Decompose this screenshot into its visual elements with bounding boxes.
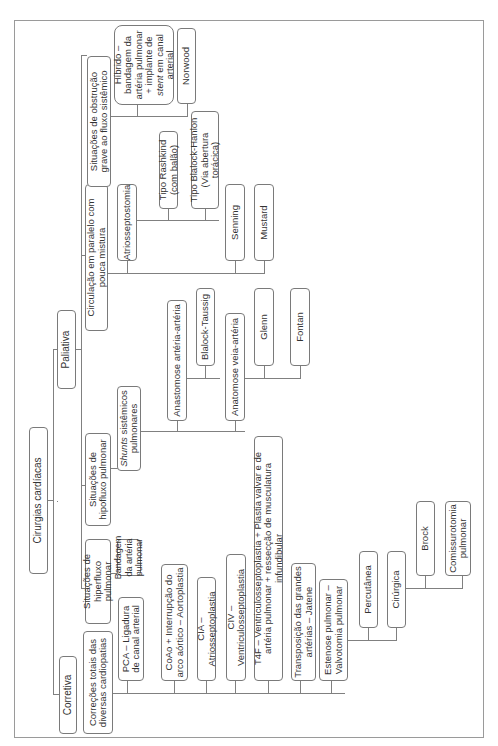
connector (137, 105, 138, 117)
connector (187, 378, 220, 379)
connector (268, 681, 269, 694)
node-root: Cirurgias cardíacas (29, 427, 48, 574)
connector (108, 273, 265, 274)
connector (300, 681, 301, 694)
node-tipo-rashkind: Tipo Rashkind (com balão) (159, 131, 178, 209)
connector (245, 378, 301, 379)
connector (368, 628, 369, 641)
node-tipo-blalock-hanlon: Tipo Blalock-Hanlon (Via abertura toráci… (191, 111, 219, 209)
connector (396, 588, 463, 589)
node-hiperfluxo: Situações de hiperfluxo pulmonar (85, 539, 111, 624)
connector (206, 681, 207, 694)
connector (300, 366, 301, 379)
hibrido-italic: stent (154, 75, 165, 96)
node-corretiva: Corretiva (59, 656, 77, 734)
connector (205, 366, 206, 379)
connector (187, 104, 188, 117)
node-mustard: Mustard (254, 184, 274, 261)
connector (331, 681, 332, 694)
connector (396, 628, 397, 641)
node-civ: CIV – Ventriculosseptoplastia (226, 554, 246, 681)
node-atriosseptostomia: Atriosseptostomia (117, 184, 137, 261)
node-percutanea: Percutânea (359, 551, 378, 628)
connector (235, 421, 236, 432)
connector (81, 55, 87, 56)
connector (127, 681, 128, 694)
connector (57, 501, 58, 502)
node-transposicao: Transposição das grandes artérias – Jate… (291, 563, 316, 681)
connector (462, 576, 463, 589)
node-coao: CoAo + Interrupção do arco aórtico – Aor… (161, 564, 188, 681)
diagram-canvas: Cirurgias cardíacas Corretiva Paliativa … (15, 21, 485, 739)
connector (111, 116, 188, 117)
hibrido-post: em canal arterial (154, 34, 176, 79)
node-hipofluxo: Situações de hipofluxo pulmonar (85, 433, 111, 526)
connector (168, 209, 169, 221)
node-t4f: T4F – Ventriculosseptoplastia + Plastia … (254, 436, 283, 681)
shunts-italic: Shunts (118, 437, 129, 467)
connector (177, 421, 178, 432)
node-correcoes-totais: Correções totais das diversas cardiopati… (83, 631, 113, 734)
node-paliativa: Paliativa (57, 310, 76, 389)
node-cirurgica: Cirúrgica (387, 551, 406, 628)
node-obstrucao: Situações de obstrução grave ao fluxo si… (87, 56, 111, 187)
node-norwood: Norwood (177, 28, 196, 104)
node-bandagem: Bandagem da artéria pulmonar (117, 539, 141, 576)
node-estenose: Estenose pulmonar – Valvotomia pulmonar (319, 579, 348, 681)
connector (137, 220, 219, 221)
node-blalock-taussig: Blalock-Taussig (196, 288, 215, 366)
node-anastomose-arteria-arteria: Anastomose artéria-artéria (167, 300, 187, 421)
connector (53, 349, 54, 695)
connector (129, 431, 245, 432)
connector (264, 261, 265, 274)
connector (348, 640, 397, 641)
node-brock: Brock (416, 501, 435, 576)
connector (264, 366, 265, 379)
connector (127, 261, 128, 274)
node-comissurotomia: Comissurotomia pulmonar (445, 501, 471, 576)
node-hibrido: Híbrido – bandagem da artéria pulmonar +… (114, 25, 174, 105)
node-pca: PCA – Ligadura de canal arterial (118, 597, 144, 681)
connector (205, 209, 206, 221)
connector (113, 693, 345, 694)
connector (48, 500, 53, 501)
connector (174, 681, 175, 694)
diagram-frame: Cirurgias cardíacas Corretiva Paliativa … (14, 20, 484, 738)
node-anatomose-veia-arteria: Anatomose veia-artéria (225, 313, 245, 421)
connector (235, 261, 236, 274)
hibrido-pre: Híbrido – bandagem da artéria pulmonar +… (112, 30, 155, 99)
connector (425, 576, 426, 589)
node-shunts: Shunts sistêmicos pulmonares (117, 386, 141, 471)
node-circulacao-paralelo: Circulação em paralelo com pouca mistura (85, 184, 108, 331)
node-glenn: Glenn (254, 288, 274, 366)
node-cia: CIA – Atriosseptoplastia (197, 577, 216, 681)
connector (81, 56, 82, 589)
node-senning: Senning (225, 184, 245, 261)
node-fontan: Fontan (290, 288, 310, 366)
connector (235, 681, 236, 694)
